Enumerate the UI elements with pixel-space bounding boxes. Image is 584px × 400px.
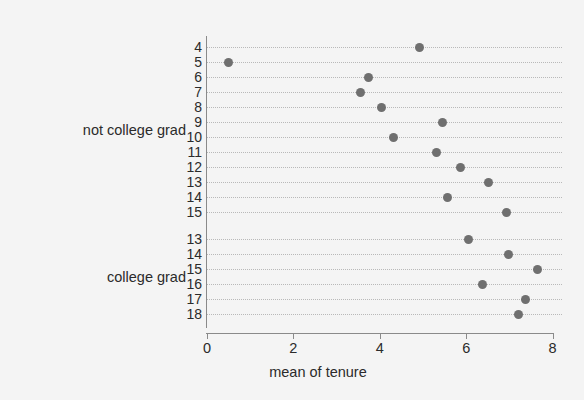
gridline bbox=[207, 299, 562, 300]
y-axis-tick-label: 15 bbox=[168, 205, 202, 219]
gridline bbox=[207, 284, 562, 285]
y-axis-tick-label: 14 bbox=[168, 190, 202, 204]
x-axis-tick-label: 2 bbox=[289, 341, 297, 356]
gridline bbox=[207, 182, 562, 183]
data-point[interactable] bbox=[514, 310, 523, 319]
data-point[interactable] bbox=[415, 43, 424, 52]
plot-area bbox=[207, 36, 562, 328]
y-axis-tick-label-column: 456789101112131415131415161718 bbox=[168, 36, 202, 328]
x-axis-tick bbox=[466, 334, 467, 339]
y-axis-tick-label: 14 bbox=[168, 247, 202, 261]
data-point[interactable] bbox=[478, 280, 487, 289]
data-point[interactable] bbox=[502, 208, 511, 217]
y-axis-tick-label: 6 bbox=[168, 70, 202, 84]
gridline bbox=[207, 92, 562, 93]
gridline bbox=[207, 62, 562, 63]
data-point[interactable] bbox=[389, 133, 398, 142]
data-point[interactable] bbox=[521, 295, 530, 304]
gridline bbox=[207, 137, 562, 138]
x-axis-title: mean of tenure bbox=[0, 364, 584, 380]
gridline bbox=[207, 167, 562, 168]
y-axis-tick-label: 13 bbox=[168, 175, 202, 189]
gridline bbox=[207, 314, 562, 315]
gridline bbox=[207, 239, 562, 240]
gridline bbox=[207, 269, 562, 270]
group-label-column: not college gradcollege grad bbox=[0, 0, 186, 400]
data-point[interactable] bbox=[464, 235, 473, 244]
data-point[interactable] bbox=[224, 58, 233, 67]
x-axis-tick-label: 4 bbox=[376, 341, 384, 356]
y-axis-tick-label: 7 bbox=[168, 85, 202, 99]
data-point[interactable] bbox=[356, 88, 365, 97]
y-axis-tick-label: 16 bbox=[168, 277, 202, 291]
data-point[interactable] bbox=[438, 118, 447, 127]
x-axis-tick bbox=[553, 334, 554, 339]
data-point[interactable] bbox=[443, 193, 452, 202]
y-axis-tick-label: 17 bbox=[168, 292, 202, 306]
chart-canvas: not college gradcollege grad 45678910111… bbox=[0, 0, 584, 400]
data-point[interactable] bbox=[504, 250, 513, 259]
y-axis-tick-label: 4 bbox=[168, 40, 202, 54]
data-point[interactable] bbox=[432, 148, 441, 157]
x-axis-tick bbox=[293, 334, 294, 339]
y-axis-tick-label: 8 bbox=[168, 100, 202, 114]
x-axis-tick-label: 6 bbox=[462, 341, 470, 356]
y-axis-tick-label: 13 bbox=[168, 232, 202, 246]
x-axis-tick-label: 0 bbox=[203, 341, 211, 356]
data-point[interactable] bbox=[377, 103, 386, 112]
gridline bbox=[207, 197, 562, 198]
data-point[interactable] bbox=[364, 73, 373, 82]
gridline bbox=[207, 122, 562, 123]
x-axis-tick-label: 8 bbox=[549, 341, 557, 356]
gridline bbox=[207, 47, 562, 48]
data-point[interactable] bbox=[456, 163, 465, 172]
y-axis-tick-label: 5 bbox=[168, 55, 202, 69]
x-axis-tick bbox=[380, 334, 381, 339]
gridline bbox=[207, 152, 562, 153]
y-axis-tick-label: 10 bbox=[168, 130, 202, 144]
gridline bbox=[207, 77, 562, 78]
y-axis-tick-label: 12 bbox=[168, 160, 202, 174]
y-axis-tick-label: 11 bbox=[168, 145, 202, 159]
data-point[interactable] bbox=[533, 265, 542, 274]
y-axis-tick-label: 18 bbox=[168, 307, 202, 321]
y-axis-tick-label: 9 bbox=[168, 115, 202, 129]
data-point[interactable] bbox=[484, 178, 493, 187]
x-axis-tick bbox=[207, 334, 208, 339]
y-axis-tick-label: 15 bbox=[168, 262, 202, 276]
